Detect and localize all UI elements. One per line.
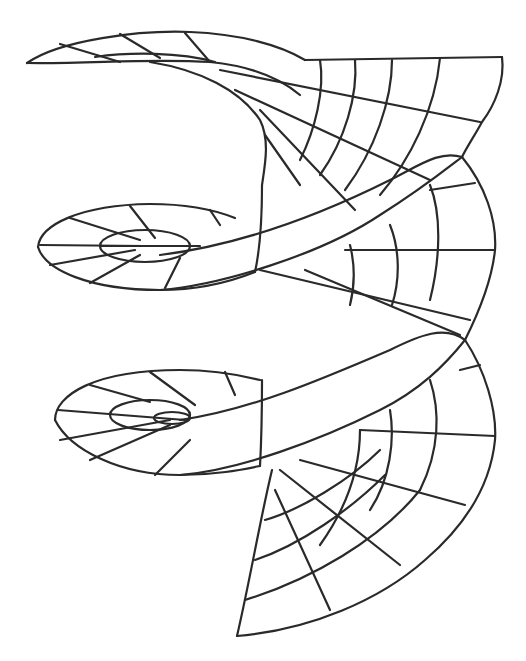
- lower-turn: [55, 333, 495, 636]
- helicoid-figure: [0, 0, 526, 661]
- helicoid-drawing: [0, 0, 526, 661]
- top-turn: [27, 32, 503, 210]
- middle-turn: [38, 155, 495, 340]
